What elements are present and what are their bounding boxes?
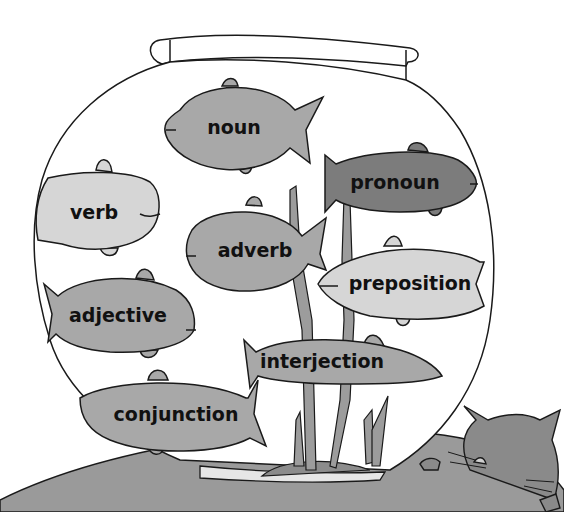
fish-label-interjection: interjection	[260, 350, 384, 372]
fish-label-adverb: adverb	[218, 239, 293, 261]
fish-label-adjective: adjective	[69, 304, 167, 326]
fish-label-preposition: preposition	[349, 272, 472, 294]
fish-label-noun: noun	[207, 116, 261, 138]
fish-label-pronoun: pronoun	[350, 171, 440, 193]
fish-label-conjunction: conjunction	[114, 403, 239, 425]
fish-label-verb: verb	[70, 201, 118, 223]
